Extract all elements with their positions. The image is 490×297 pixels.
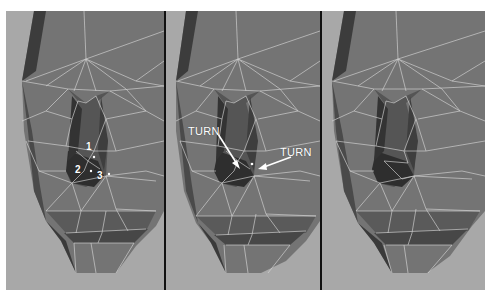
vertex-label-1: 1: [86, 141, 92, 152]
turn-label-left: TURN: [188, 125, 220, 137]
panel-1: 1 2 3: [6, 11, 164, 290]
face-mesh-3: [322, 11, 485, 290]
vertex-label-3: 3: [97, 170, 103, 181]
vertex-label-2: 2: [75, 164, 81, 175]
panel-2: TURN TURN: [166, 11, 320, 290]
figure-frame: 1 2 3: [6, 11, 485, 290]
panel-3: [322, 11, 485, 290]
turn-label-right: TURN: [280, 146, 312, 158]
face-mesh-1: [6, 11, 164, 290]
